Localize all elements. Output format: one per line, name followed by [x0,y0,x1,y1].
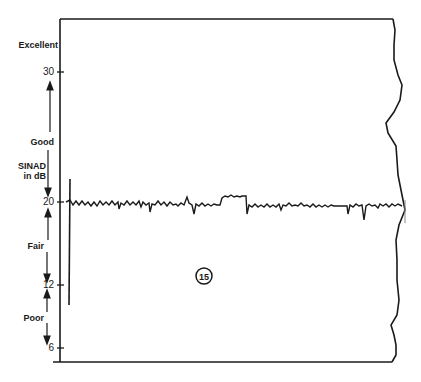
sinad-trace [66,195,402,220]
annotation-label: 15 [199,272,209,282]
tick-label-30: 30 [34,66,54,77]
band-label-poor: Poor [2,313,44,323]
tick-label-12: 12 [34,279,54,290]
tick-label-20: 20 [34,196,54,207]
band-label-good: Good [2,137,54,147]
sinad-chart: 15 [0,0,421,382]
axis-label-in-db: in dB [2,171,46,181]
vertical-marker [69,179,70,305]
band-label-excellent: Excellent [2,40,58,50]
band-arrows [44,82,53,344]
tick-label-6: 6 [34,342,54,353]
axis-label-sinad: SINAD [2,161,46,171]
plot-frame [53,19,405,362]
band-label-fair: Fair [2,241,44,251]
